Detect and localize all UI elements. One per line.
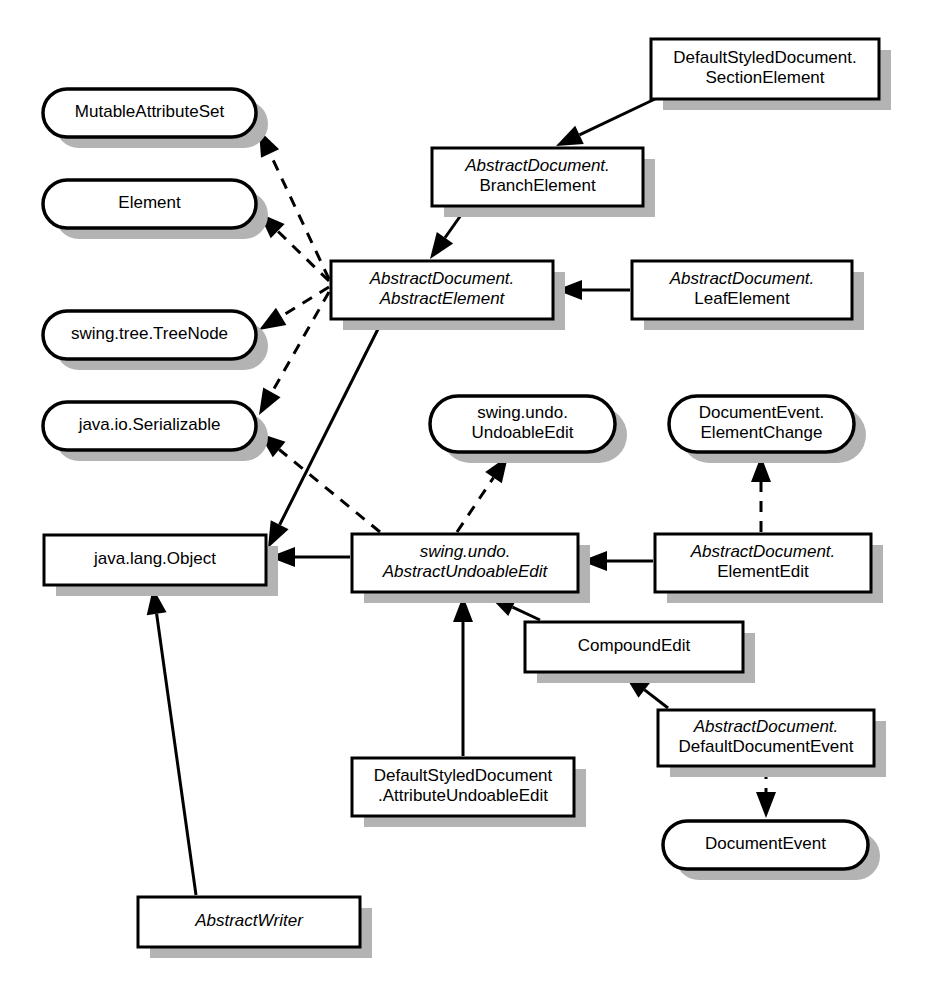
edge-realization-element-edit-to-element-change [751, 456, 771, 532]
node-label-line: AbstractDocument. [690, 542, 836, 561]
node-label-line: SectionElement [705, 68, 824, 87]
edge-realization-abstract-element-to-element [259, 213, 329, 281]
diagram-canvas: DefaultStyledDocument.SectionElementMuta… [0, 0, 928, 1006]
node-abstract-element[interactable]: AbstractDocument.AbstractElement [331, 261, 565, 330]
node-layer: DefaultStyledDocument.SectionElementMuta… [43, 39, 891, 958]
arrowhead [556, 126, 584, 146]
edge-line [457, 478, 494, 532]
edge-line [278, 231, 329, 281]
edge-generalization-abstract-element-to-java-lang-object [268, 321, 382, 548]
edge-generalization-abstract-writer-to-java-lang-object [147, 588, 196, 895]
edge-line [270, 154, 329, 279]
node-label-line: AbstractUndoableEdit [382, 562, 549, 581]
node-label-line: DefaultStyledDocument [374, 766, 553, 785]
node-label-line: DefaultStyledDocument. [673, 48, 856, 67]
node-leaf-element[interactable]: AbstractDocument.LeafElement [632, 261, 864, 330]
arrowhead [430, 232, 453, 259]
node-element[interactable]: Element [43, 180, 268, 239]
edge-generalization-abstract-undoable-edit-to-java-lang-object [269, 547, 350, 567]
node-label-line: AbstractDocument. [693, 717, 839, 736]
node-label-line: java.lang.Object [93, 549, 216, 568]
node-label-line: swing.undo. [420, 542, 511, 561]
node-label-line: swing.tree.TreeNode [71, 324, 228, 343]
node-label-line: swing.undo. [477, 403, 568, 422]
node-undoable-edit[interactable]: swing.undo.UndoableEdit [430, 396, 627, 463]
node-document-event[interactable]: DocumentEvent [663, 821, 880, 880]
node-element-change[interactable]: DocumentEvent.ElementChange [669, 396, 866, 463]
node-label-line: AbstractElement [379, 289, 506, 308]
edge-generalization-attribute-undoable-edit-to-abstract-undoable-edit [453, 596, 473, 756]
edge-generalization-section-element-to-branch-element [556, 99, 655, 146]
arrowhead [259, 308, 286, 330]
node-default-document-event[interactable]: AbstractDocument.DefaultDocumentEvent [658, 710, 886, 777]
node-label-line: DocumentEvent. [699, 403, 825, 422]
node-label-line: DefaultDocumentEvent [679, 737, 854, 756]
node-abstract-writer[interactable]: AbstractWriter [138, 897, 372, 958]
edge-realization-abstract-undoable-edit-to-undoable-edit [457, 456, 508, 532]
node-compound-edit[interactable]: CompoundEdit [525, 622, 755, 683]
edge-line [513, 607, 540, 620]
node-serializable[interactable]: java.io.Serializable [43, 402, 268, 461]
node-label-line: Element [118, 193, 181, 212]
edge-line [645, 690, 668, 708]
node-label-line: AbstractDocument. [464, 156, 610, 175]
node-label-line: UndoableEdit [471, 423, 573, 442]
node-label-line: ElementEdit [717, 562, 809, 581]
node-java-lang-object[interactable]: java.lang.Object [44, 535, 278, 596]
edge-line [279, 449, 380, 532]
edge-realization-abstract-element-to-tree-node [259, 287, 329, 330]
node-label-line: DocumentEvent [705, 834, 826, 853]
node-label-line: .AttributeUndoableEdit [378, 786, 548, 805]
edge-line [157, 614, 196, 895]
node-tree-node[interactable]: swing.tree.TreeNode [43, 311, 268, 370]
node-branch-element[interactable]: AbstractDocument.BranchElement [432, 148, 655, 217]
node-label-line: AbstractDocument. [369, 269, 515, 288]
node-label-line: AbstractDocument. [669, 269, 815, 288]
node-label-line: CompoundEdit [578, 636, 691, 655]
edge-line [272, 292, 329, 392]
node-label-line: java.io.Serializable [78, 415, 221, 434]
edge-line [579, 99, 655, 135]
node-label-line: LeafElement [694, 289, 790, 308]
edge-line [281, 287, 329, 316]
edge-realization-abstract-element-to-mutable-attribute-set [259, 130, 329, 279]
node-label-line: ElementChange [701, 423, 823, 442]
arrowhead [259, 387, 281, 415]
uml-class-diagram: DefaultStyledDocument.SectionElementMuta… [0, 0, 928, 1006]
node-section-element[interactable]: DefaultStyledDocument.SectionElement [651, 39, 891, 110]
node-label-line: AbstractWriter [194, 911, 304, 930]
edge-generalization-leaf-element-to-abstract-element [556, 280, 630, 300]
edge-realization-abstract-element-to-serializable [259, 292, 329, 415]
arrowhead [268, 520, 289, 548]
node-element-edit[interactable]: AbstractDocument.ElementEdit [655, 534, 883, 603]
node-label-line: BranchElement [479, 176, 596, 195]
node-abstract-undoable-edit[interactable]: swing.undo.AbstractUndoableEdit [352, 534, 590, 603]
node-label-line: MutableAttributeSet [75, 102, 225, 121]
arrowhead [756, 792, 776, 818]
node-mutable-attribute-set[interactable]: MutableAttributeSet [43, 89, 268, 148]
node-attribute-undoable-edit[interactable]: DefaultStyledDocument.AttributeUndoableE… [352, 758, 586, 827]
edge-generalization-element-edit-to-abstract-undoable-edit [581, 551, 653, 571]
